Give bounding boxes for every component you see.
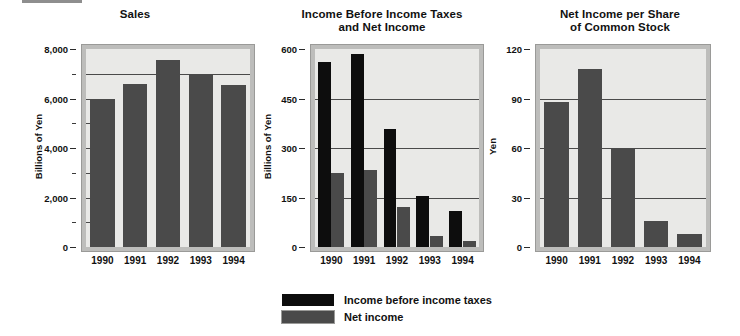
bar-1991-s1 [364,170,377,247]
y-tick-mark-minor [72,74,76,75]
y-tick-mark [70,49,76,50]
y-tick-label: 30 [511,192,522,203]
bar-1990-s1 [331,173,344,247]
chart-panel-income: Income Before Income Taxes and Net Incom… [262,0,502,290]
y-tick-label: 8,000 [44,44,68,55]
y-tick-label: 60 [511,143,522,154]
y-tick-mark [70,198,76,199]
y-tick-mark [524,198,530,199]
bar-1992-v [611,148,636,247]
bar-1993-s0 [416,196,429,247]
y-tick-label: 0 [517,242,522,253]
bar-1994-s0 [449,211,462,247]
x-axis-labels-sales: 19901991199219931994 [86,255,250,271]
chart-title-line2: of Common Stock [504,21,736,34]
y-tick-mark [70,148,76,149]
legend-item: Income before income taxes [282,292,542,309]
legend-swatch-income-before-taxes [282,294,334,306]
y-tick-mark [524,148,530,149]
bar-1994-v [677,234,702,247]
y-tick-mark-minor [72,123,76,124]
y-tick-label: 150 [281,192,297,203]
bar-1993-v [644,221,669,247]
y-tick-mark [524,99,530,100]
bar-1992-s1 [397,207,410,247]
chart-panel-eps: Net Income per Share of Common Stock Yen… [504,0,736,290]
legend-swatch-net-income [282,311,334,323]
x-tick-label-1993: 1993 [413,255,446,266]
x-tick-label-1990: 1990 [86,255,119,266]
y-tick-mark-minor [72,222,76,223]
legend-label: Income before income taxes [344,292,492,308]
y-tick-label: 90 [511,93,522,104]
x-axis-labels-income: 19901991199219931994 [315,255,479,271]
x-tick-label-1994: 1994 [673,255,706,266]
y-axis-label-eps: Yen [487,87,498,207]
bar-1992-v [156,60,180,247]
chart-title-income: Income Before Income Taxes and Net Incom… [262,8,502,34]
x-tick-label-1992: 1992 [606,255,639,266]
y-tick-mark [299,99,305,100]
y-tick-label: 4,000 [44,143,68,154]
bar-1990-v [544,102,569,247]
x-tick-label-1994: 1994 [217,255,250,266]
y-axis-eps: 0306090120 [504,45,536,251]
bar-1994-s1 [463,241,476,247]
y-tick-mark [299,148,305,149]
bars-sales [86,49,250,247]
plot-area-income [315,49,479,247]
bar-1993-s1 [430,236,443,247]
bar-1991-s0 [351,54,364,247]
x-axis-labels-eps: 19901991199219931994 [540,255,706,271]
x-tick-label-1990: 1990 [315,255,348,266]
chart-legend: Income before income taxes Net income [282,292,542,326]
x-tick-label-1991: 1991 [348,255,381,266]
y-tick-mark [524,247,530,248]
bars-income [315,49,479,247]
y-axis-income: 0150300450600 [262,45,311,251]
plot-frame-eps [536,45,710,251]
plot-area-sales [86,49,250,247]
y-tick-label: 0 [292,242,297,253]
bar-1990-s0 [318,62,331,247]
bar-1992-s0 [384,129,397,247]
y-tick-label: 0 [63,242,68,253]
plot-area-eps [540,49,706,247]
x-tick-label-1992: 1992 [381,255,414,266]
y-tick-mark [299,49,305,50]
bar-1991-v [578,69,603,247]
chart-panel-sales: Sales Billions of Yen 02,0004,0006,0008,… [10,0,260,290]
plot-frame-sales [82,45,254,251]
bar-1991-v [123,84,147,247]
y-tick-label: 300 [281,143,297,154]
legend-label: Net income [344,309,403,325]
y-tick-mark [524,49,530,50]
x-tick-label-1993: 1993 [640,255,673,266]
y-tick-label: 6,000 [44,93,68,104]
chart-title-line1: Net Income per Share [560,8,680,20]
x-tick-label-1991: 1991 [573,255,606,266]
y-tick-label: 120 [506,44,522,55]
x-tick-label-1991: 1991 [119,255,152,266]
y-tick-mark [299,247,305,248]
chart-title-line1: Income Before Income Taxes [302,8,463,20]
y-tick-mark-minor [72,173,76,174]
bars-eps [540,49,706,247]
x-tick-label-1993: 1993 [184,255,217,266]
chart-title-line1: Sales [120,8,151,20]
y-tick-label: 2,000 [44,192,68,203]
chart-title-eps: Net Income per Share of Common Stock [504,8,736,34]
bar-1993-v [189,74,213,247]
y-tick-label: 600 [281,44,297,55]
y-tick-mark [299,198,305,199]
legend-item: Net income [282,309,542,326]
y-tick-mark [70,247,76,248]
x-tick-label-1994: 1994 [446,255,479,266]
y-tick-mark [70,99,76,100]
chart-title-sales: Sales [10,8,260,21]
y-axis-sales: 02,0004,0006,0008,000 [10,45,82,251]
bar-1990-v [90,99,114,248]
x-tick-label-1990: 1990 [540,255,573,266]
y-tick-label: 450 [281,93,297,104]
x-tick-label-1992: 1992 [152,255,185,266]
